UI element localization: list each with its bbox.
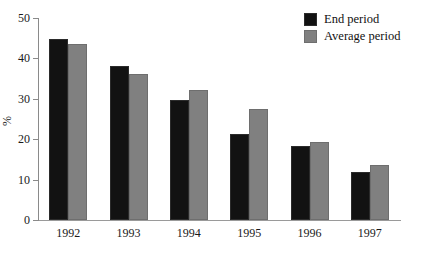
x-axis-tick-label: 1997	[358, 226, 382, 241]
y-axis-tick-label: 0	[0, 213, 30, 228]
bar-1992-average-period	[68, 44, 87, 220]
bar-1997-end-period	[351, 172, 370, 220]
y-axis-tick-label: 20	[0, 132, 30, 147]
x-axis-tick-label: 1994	[177, 226, 201, 241]
gray-swatch-icon	[304, 30, 317, 43]
chart-legend: End period Average period	[304, 12, 400, 46]
legend-label: Average period	[324, 29, 400, 44]
y-axis-tick-label: 10	[0, 172, 30, 187]
bar-1996-end-period	[291, 146, 310, 220]
bar-1992-end-period	[49, 39, 68, 220]
x-axis-tick-label: 1995	[237, 226, 261, 241]
bar-chart: % 01020304050 199219931994199519961997 E…	[0, 0, 421, 255]
y-axis-tick-label: 30	[0, 91, 30, 106]
bar-1996-average-period	[310, 142, 329, 220]
y-axis-tick	[33, 220, 39, 221]
y-axis-tick-label: 40	[0, 51, 30, 66]
legend-item-end-period: End period	[304, 12, 400, 27]
x-axis-tick-label: 1996	[298, 226, 322, 241]
x-axis-tick-label: 1993	[117, 226, 141, 241]
bar-1993-average-period	[129, 74, 148, 220]
black-swatch-icon	[304, 13, 317, 26]
bar-1995-average-period	[249, 109, 268, 221]
bar-1993-end-period	[110, 66, 129, 220]
bars-layer	[38, 18, 400, 220]
bar-1995-end-period	[230, 134, 249, 220]
bar-1994-average-period	[189, 90, 208, 220]
y-axis-title: %	[0, 116, 15, 126]
legend-item-average-period: Average period	[304, 29, 400, 44]
legend-label: End period	[324, 12, 379, 27]
bar-1994-end-period	[170, 100, 189, 220]
x-axis-line	[38, 220, 401, 221]
bar-1997-average-period	[370, 165, 389, 220]
x-axis-tick-label: 1992	[56, 226, 80, 241]
y-axis-tick-label: 50	[0, 11, 30, 26]
